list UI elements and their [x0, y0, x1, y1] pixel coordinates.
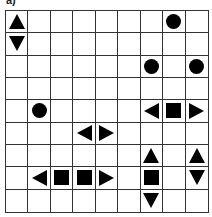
grid-cell — [51, 11, 73, 33]
grid-cell — [96, 33, 118, 55]
puzzle-grid — [5, 10, 209, 213]
grid-cell — [96, 56, 118, 78]
grid-cell — [6, 190, 28, 212]
grid-cell — [163, 167, 185, 189]
grid-cell — [73, 145, 95, 167]
grid-cell — [28, 123, 50, 145]
grid-cell — [186, 11, 208, 33]
grid-cell — [96, 167, 118, 189]
grid-cell — [28, 100, 50, 122]
grid-cell — [6, 145, 28, 167]
grid-cell — [163, 78, 185, 100]
grid-cell — [73, 190, 95, 212]
circle-icon — [166, 14, 181, 29]
triangle-up-icon — [189, 148, 205, 163]
square-icon — [77, 170, 92, 185]
grid-cell — [118, 100, 140, 122]
grid-cell — [163, 145, 185, 167]
grid-cell — [51, 167, 73, 189]
grid-cell — [118, 123, 140, 145]
grid-cell — [6, 123, 28, 145]
grid-cell — [51, 56, 73, 78]
grid-cell — [186, 145, 208, 167]
grid-cell — [118, 78, 140, 100]
grid-cell — [51, 145, 73, 167]
grid-cell — [96, 11, 118, 33]
grid-cell — [141, 145, 163, 167]
grid-cell — [118, 190, 140, 212]
triangle-left-icon — [144, 103, 159, 119]
grid-cell — [141, 167, 163, 189]
grid-cell — [6, 56, 28, 78]
grid-cell — [141, 11, 163, 33]
grid-cell — [163, 11, 185, 33]
grid-cell — [28, 11, 50, 33]
triangle-down-icon — [189, 170, 205, 185]
grid-cell — [141, 100, 163, 122]
grid-cell — [73, 33, 95, 55]
circle-icon — [32, 103, 47, 118]
grid-cell — [73, 11, 95, 33]
grid-cell — [163, 100, 185, 122]
grid-cell — [186, 123, 208, 145]
square-icon — [54, 170, 69, 185]
grid-cell — [51, 100, 73, 122]
grid-cell — [186, 167, 208, 189]
grid-cell — [141, 190, 163, 212]
circle-icon — [144, 59, 159, 74]
grid-cell — [28, 33, 50, 55]
triangle-up-icon — [9, 14, 25, 29]
square-icon — [166, 103, 181, 118]
grid-cell — [73, 100, 95, 122]
triangle-left-icon — [77, 125, 92, 141]
grid-cell — [51, 123, 73, 145]
grid-cell — [163, 33, 185, 55]
grid-cell — [6, 100, 28, 122]
grid-cell — [51, 190, 73, 212]
grid-cell — [28, 145, 50, 167]
triangle-up-icon — [143, 148, 159, 163]
grid-cell — [186, 56, 208, 78]
grid-cell — [28, 78, 50, 100]
grid-cell — [186, 78, 208, 100]
grid-cell — [141, 123, 163, 145]
triangle-right-icon — [189, 103, 204, 119]
grid-cell — [51, 78, 73, 100]
triangle-right-icon — [99, 125, 114, 141]
grid-cell — [28, 56, 50, 78]
grid-cell — [118, 11, 140, 33]
grid-cell — [96, 145, 118, 167]
grid-cell — [6, 11, 28, 33]
grid-cell — [118, 167, 140, 189]
grid-cell — [73, 123, 95, 145]
grid-cell — [73, 167, 95, 189]
grid-cell — [28, 167, 50, 189]
grid-cell — [118, 33, 140, 55]
triangle-right-icon — [99, 170, 114, 186]
grid-cell — [163, 190, 185, 212]
grid-cell — [186, 33, 208, 55]
grid-cell — [141, 56, 163, 78]
grid-cell — [186, 100, 208, 122]
grid-cell — [28, 190, 50, 212]
grid-cell — [118, 145, 140, 167]
triangle-left-icon — [32, 170, 47, 186]
grid-cell — [51, 33, 73, 55]
grid-cell — [118, 56, 140, 78]
grid-cell — [141, 78, 163, 100]
grid-cell — [163, 123, 185, 145]
grid-cell — [73, 56, 95, 78]
grid-cell — [6, 78, 28, 100]
grid-cell — [96, 78, 118, 100]
triangle-down-icon — [9, 36, 25, 51]
grid-cell — [96, 190, 118, 212]
grid-cell — [163, 56, 185, 78]
square-icon — [144, 170, 159, 185]
grid-cell — [96, 100, 118, 122]
circle-icon — [189, 59, 204, 74]
grid-cell — [6, 167, 28, 189]
grid-cell — [6, 33, 28, 55]
grid-cell — [96, 123, 118, 145]
grid-cell — [141, 33, 163, 55]
figure-label: a) — [6, 0, 16, 6]
